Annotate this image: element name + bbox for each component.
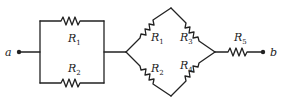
resistor-r5-label: R5: [233, 31, 247, 46]
resistor-r1-diamond-label: R1: [150, 31, 164, 46]
resistor-r2-diamond-label: R2: [150, 62, 164, 77]
resistor-r2-diamond: [126, 52, 171, 96]
resistor-r3-diamond: [171, 8, 215, 52]
diamond-network: R1 R2 R3 R4: [126, 8, 215, 96]
terminal-b-dot: [261, 50, 265, 54]
resistor-r5: [215, 48, 263, 56]
terminal-b-label: b: [270, 46, 277, 59]
resistor-r2-left-label: R2: [67, 62, 81, 77]
resistor-r2-left: [40, 79, 104, 87]
resistor-r1-left-label: R1: [67, 32, 81, 47]
parallel-block: R1 R2: [40, 17, 104, 87]
resistor-r1-diamond: [126, 8, 171, 52]
resistor-r4-diamond-label: R4: [179, 59, 193, 74]
resistor-r4-diamond: [171, 52, 215, 96]
resistor-r1-left: [40, 17, 104, 25]
circuit-diagram: a R1 R2 R1 R2 R3 R4 R5 b: [0, 0, 281, 103]
terminal-a-label: a: [5, 46, 12, 59]
